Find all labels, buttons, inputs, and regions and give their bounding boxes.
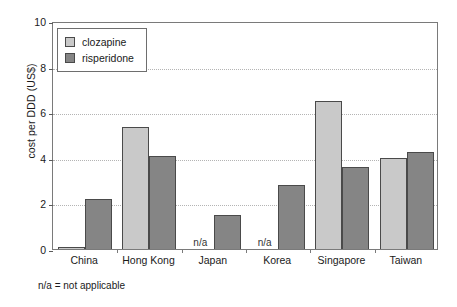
legend-swatch-clozapine: [65, 37, 75, 47]
y-tick-label-8: 8: [24, 62, 46, 73]
bar-group-japan: n/a: [182, 23, 246, 249]
legend-item-risperidone[interactable]: risperidone: [65, 50, 134, 66]
bar-japan-risperidone[interactable]: [214, 215, 241, 249]
legend-label-clozapine: clozapine: [82, 36, 126, 48]
na-label: n/a: [258, 237, 272, 248]
na-label: n/a: [193, 237, 207, 248]
bar-group-inner: n/a: [246, 23, 310, 249]
x-tick-mark-2: [246, 249, 247, 253]
y-tick-label-10: 10: [24, 17, 46, 28]
x-tick-label-korea: Korea: [263, 254, 291, 266]
bar-china-risperidone[interactable]: [85, 199, 112, 249]
legend-label-risperidone: risperidone: [82, 52, 134, 64]
x-tick-label-hong-kong: Hong Kong: [122, 254, 175, 266]
bar-group-inner: n/a: [182, 23, 246, 249]
x-tick-label-japan: Japan: [199, 254, 228, 266]
y-axis-tick-labels: 0246810: [22, 0, 46, 307]
bar-hong-kong-clozapine[interactable]: [122, 127, 149, 249]
bar-group-taiwan: [375, 23, 439, 249]
x-tick-label-taiwan: Taiwan: [389, 254, 422, 266]
na-slot-japan-clozapine: n/a: [187, 23, 214, 249]
y-tick-label-0: 0: [24, 245, 46, 256]
bar-group-inner: [375, 23, 439, 249]
x-tick-label-china: China: [70, 254, 97, 266]
bar-chart-figure: cost per DDD (US$) 0246810 n/an/a ChinaH…: [0, 0, 457, 307]
x-tick-mark-4: [375, 249, 376, 253]
y-tick-label-4: 4: [24, 154, 46, 165]
bar-group-inner: [310, 23, 374, 249]
x-tick-label-singapore: Singapore: [318, 254, 366, 266]
bar-singapore-risperidone[interactable]: [342, 167, 369, 249]
y-tick-label-6: 6: [24, 108, 46, 119]
x-tick-mark-1: [182, 249, 183, 253]
bar-hong-kong-risperidone[interactable]: [149, 156, 176, 249]
chart-legend: clozapine risperidone: [57, 28, 147, 72]
chart-footnote: n/a = not applicable: [38, 280, 125, 291]
x-axis-tick-labels: ChinaHong KongJapanKoreaSingaporeTaiwan: [52, 254, 438, 272]
na-slot-korea-clozapine: n/a: [251, 23, 278, 249]
legend-swatch-risperidone: [65, 53, 75, 63]
bar-china-clozapine[interactable]: [58, 247, 85, 249]
y-tick-mark-0: [49, 251, 53, 252]
bar-korea-risperidone[interactable]: [278, 185, 305, 249]
bar-group-korea: n/a: [246, 23, 310, 249]
legend-item-clozapine[interactable]: clozapine: [65, 34, 134, 50]
bar-taiwan-risperidone[interactable]: [407, 152, 434, 249]
x-tick-mark-0: [117, 249, 118, 253]
x-tick-mark-3: [310, 249, 311, 253]
y-tick-label-2: 2: [24, 199, 46, 210]
bar-group-singapore: [310, 23, 374, 249]
bar-singapore-clozapine[interactable]: [315, 101, 342, 249]
bar-taiwan-clozapine[interactable]: [380, 158, 407, 249]
